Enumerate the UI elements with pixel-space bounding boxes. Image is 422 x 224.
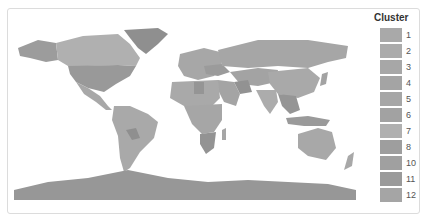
legend-label: 8 [406,142,411,152]
region-antarctica[interactable] [14,170,356,200]
legend-swatch [380,28,402,43]
region-australia[interactable] [298,128,336,160]
legend-swatch [380,124,402,139]
legend-item[interactable]: 8 [370,139,420,155]
region-usa[interactable] [68,65,136,92]
region-central-africa[interactable] [184,104,222,134]
legend-item[interactable]: 3 [370,59,420,75]
legend-swatch [380,156,402,171]
region-india[interactable] [256,90,278,114]
region-new-zealand[interactable] [344,152,354,170]
legend-swatch [380,76,402,91]
legend-item[interactable]: 12 [370,187,420,203]
legend-label: 3 [406,62,411,72]
legend-swatch [380,60,402,75]
legend-swatch [380,140,402,155]
legend-item[interactable]: 11 [370,171,420,187]
legend-item[interactable]: 10 [370,155,420,171]
legend-swatch [380,44,402,59]
legend-swatch [380,108,402,123]
legend-label: 2 [406,46,411,56]
legend-label: 6 [406,110,411,120]
legend-item[interactable]: 2 [370,43,420,59]
region-southern-africa[interactable] [200,132,216,154]
legend-item[interactable]: 5 [370,91,420,107]
legend-item[interactable]: 6 [370,107,420,123]
legend-label: 1 [406,30,411,40]
legend-label: 7 [406,126,411,136]
legend-label: 5 [406,94,411,104]
legend-title: Cluster [374,12,420,23]
region-libya[interactable] [194,82,204,94]
region-indonesia[interactable] [286,116,330,126]
legend-swatch [380,92,402,107]
legend-label: 11 [406,174,415,184]
legend-item[interactable]: 1 [370,27,420,43]
world-map-svg [8,10,364,208]
region-canada[interactable] [56,34,140,66]
cluster-legend: Cluster 1 2 3 4 5 6 7 8 10 11 12 [370,12,420,203]
legend-label: 10 [406,158,416,168]
region-madagascar[interactable] [222,128,226,140]
legend-item[interactable]: 7 [370,123,420,139]
region-russia[interactable] [218,40,348,68]
legend-item[interactable]: 4 [370,75,420,91]
world-map[interactable] [8,10,364,208]
legend-swatch [380,188,402,203]
region-japan[interactable] [320,72,328,86]
legend-label: 12 [406,190,416,200]
legend-swatch [380,172,402,187]
region-alaska[interactable] [18,40,58,62]
legend-label: 4 [406,78,411,88]
